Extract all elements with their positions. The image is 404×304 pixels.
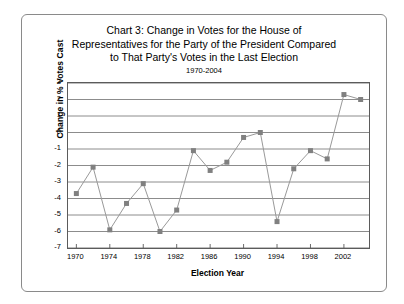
chart-title-line-3: to That Party's Votes in the Last Electi… — [31, 51, 377, 65]
x-tick-label: 1970 — [57, 253, 93, 261]
data-point-marker — [208, 168, 213, 173]
data-point-marker — [124, 201, 129, 206]
data-point-marker — [308, 148, 313, 153]
y-tick-label: -2 — [37, 161, 61, 169]
gridlines — [68, 83, 369, 248]
data-point-marker — [157, 229, 162, 234]
x-tick-label: 1974 — [91, 253, 127, 261]
chart-subtitle: 1970-2004 — [31, 66, 377, 75]
data-point-marker — [191, 148, 196, 153]
y-tick-label: 3 — [37, 78, 61, 86]
y-tick-label: -4 — [37, 194, 61, 202]
y-tick-label: -5 — [37, 210, 61, 218]
data-point-marker — [224, 160, 229, 165]
chart-figure: Chart 3: Change in Votes for the House o… — [0, 0, 404, 304]
data-point-marker — [291, 166, 296, 171]
data-point-marker — [341, 92, 346, 97]
x-axis-label: Election Year — [67, 268, 368, 278]
y-tick-label: 2 — [37, 95, 61, 103]
y-tick-label: -6 — [37, 227, 61, 235]
x-tick-label: 1986 — [191, 253, 227, 261]
y-tick-label: 0 — [37, 128, 61, 136]
x-tick-label: 1998 — [291, 253, 327, 261]
y-tick-label: -1 — [37, 144, 61, 152]
x-tick-label: 1982 — [158, 253, 194, 261]
x-tick-label: 1990 — [225, 253, 261, 261]
data-line — [76, 95, 360, 232]
x-tick-label: 2002 — [325, 253, 361, 261]
data-point-marker — [241, 135, 246, 140]
chart-title-line-2: Representatives for the Party of the Pre… — [31, 38, 377, 52]
y-tick-label: 1 — [37, 111, 61, 119]
data-point-marker — [358, 97, 363, 102]
y-tick-label: -3 — [37, 177, 61, 185]
data-point-marker — [174, 208, 179, 213]
data-point-marker — [258, 130, 263, 135]
data-markers — [74, 92, 363, 234]
plot-area — [67, 82, 370, 249]
x-tick-label: 1994 — [258, 253, 294, 261]
x-tick-marks — [76, 244, 344, 248]
data-point-marker — [91, 165, 96, 170]
chart-title: Chart 3: Change in Votes for the House o… — [31, 24, 377, 65]
x-tick-label: 1978 — [124, 253, 160, 261]
data-point-marker — [141, 181, 146, 186]
chart-plot-svg — [68, 83, 369, 248]
y-tick-label: -7 — [37, 243, 61, 251]
data-point-marker — [107, 227, 112, 232]
data-point-marker — [275, 219, 280, 224]
data-point-marker — [325, 156, 330, 161]
chart-title-line-1: Chart 3: Change in Votes for the House o… — [31, 24, 377, 38]
data-point-marker — [74, 191, 79, 196]
y-axis-label: Change in % Votes Cast — [55, 14, 65, 164]
